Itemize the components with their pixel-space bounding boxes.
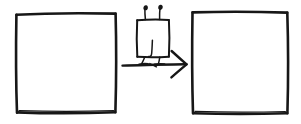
left-foot-base	[139, 64, 148, 65]
sketch-canvas: empty square panel rightward arrow small…	[0, 0, 301, 124]
arrow-head-upper	[172, 51, 187, 64]
right-foot-base	[155, 64, 165, 65]
left-panel-edge-top	[17, 13, 116, 15]
right-panel-edge-top	[193, 12, 288, 13]
left-panel-edge-left	[16, 15, 17, 113]
left-panel-bottom-shadow	[19, 111, 114, 112]
arrow-head-lower	[171, 64, 186, 77]
television-set	[137, 5, 170, 67]
right-panel-edge-left	[192, 13, 193, 114]
right-panel	[192, 12, 288, 114]
left-panel-edge-right	[115, 14, 116, 112]
screen-squiggle	[149, 40, 153, 56]
left-antenna-knob	[143, 5, 148, 10]
tv-edge-left	[137, 20, 138, 57]
left-panel-edge-bottom	[17, 112, 115, 113]
right-panel-edge-bottom	[193, 113, 287, 114]
left-panel	[16, 13, 116, 113]
hand-drawn-diagram	[0, 0, 301, 124]
tv-edge-bottom	[137, 57, 169, 58]
right-panel-bottom-shadow	[195, 111, 285, 112]
tv-edge-top	[137, 20, 169, 21]
right-panel-edge-right	[287, 13, 288, 113]
right-antenna-knob	[158, 5, 163, 10]
